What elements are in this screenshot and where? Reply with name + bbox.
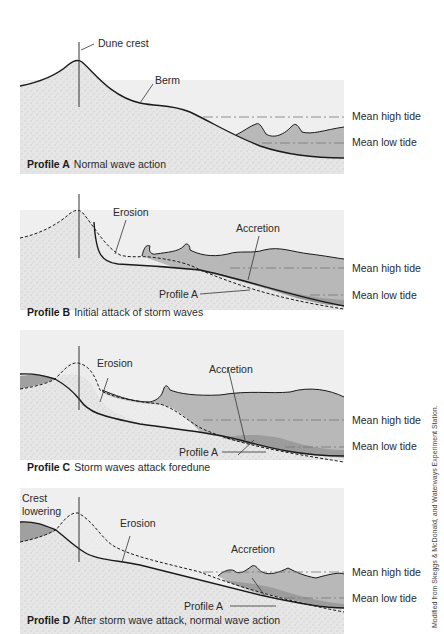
profile-a-ref-label-b: Profile A: [159, 288, 198, 300]
mean-low-tide-label-b: Mean low tide: [352, 289, 417, 301]
accretion-label-b: Accretion: [236, 222, 280, 234]
profile-a-ref-label-c: Profile A: [179, 446, 218, 458]
erosion-label-c: Erosion: [97, 357, 133, 369]
mean-high-tide-label: Mean high tide: [352, 110, 421, 122]
profile-a-caption: Profile ANormal wave action: [27, 158, 166, 170]
mean-low-tide-label-d: Mean low tide: [352, 592, 417, 604]
dune-crest-label: Dune crest: [98, 37, 149, 49]
profile-a-ref-label-d: Profile A: [184, 600, 223, 612]
accretion-label-d: Accretion: [231, 543, 275, 555]
berm-label: Berm: [155, 74, 180, 86]
mean-low-tide-label-c: Mean low tide: [352, 440, 417, 452]
profile-a-panel: Dune crest Berm Mean high tide Mean low …: [20, 37, 421, 174]
mean-high-tide-label-d: Mean high tide: [352, 566, 421, 578]
beach-profile-diagram: Dune crest Berm Mean high tide Mean low …: [0, 0, 444, 634]
accretion-label-c: Accretion: [209, 363, 253, 375]
erosion-label-d: Erosion: [120, 517, 156, 529]
profile-b-caption: Profile BInitial attack of storm waves: [27, 306, 203, 318]
erosion-label-b: Erosion: [113, 206, 149, 218]
mean-high-tide-label-c: Mean high tide: [352, 414, 421, 426]
source-credit: Modified from Skeggs & McDonald, and Wat…: [431, 405, 439, 628]
profile-b-panel: Erosion Accretion Profile A Mean high ti…: [20, 194, 421, 318]
mean-high-tide-label-b: Mean high tide: [352, 262, 421, 274]
crest-lowering-label-1: Crest: [22, 492, 47, 504]
crest-lowering-label-2: lowering: [22, 505, 61, 517]
profile-d-caption: Profile DAfter storm wave attack, normal…: [27, 614, 280, 626]
mean-low-tide-label: Mean low tide: [352, 136, 417, 148]
profile-d-panel: Crest lowering Erosion Accretion Profile…: [20, 488, 421, 634]
profile-c-caption: Profile CStorm waves attack foredune: [27, 461, 210, 473]
profile-c-panel: Erosion Accretion Profile A Mean high ti…: [20, 330, 421, 473]
